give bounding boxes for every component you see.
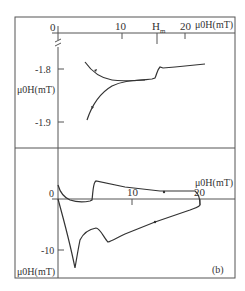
top-y-tick-label-1.8: -1.8 bbox=[35, 64, 51, 75]
top-curve-increasing bbox=[87, 80, 145, 120]
top-x-tick-label-10: 10 bbox=[115, 20, 127, 32]
top-panel: 0 10 H m 20 μ0H(mT) -1.8 -1.9 μ0H(mT) bbox=[17, 19, 235, 148]
bottom-y-tick-label-10: -10 bbox=[41, 245, 54, 256]
top-y-tick-label-1.9: -1.9 bbox=[35, 117, 51, 128]
bottom-x-tick-label-0: 0 bbox=[49, 188, 54, 199]
figure: 0 10 H m 20 μ0H(mT) -1.8 -1.9 μ0H(mT) 0 … bbox=[0, 0, 245, 291]
arrow-icon bbox=[163, 191, 165, 193]
top-curve-decreasing bbox=[85, 62, 205, 81]
top-x-axis-label: μ0H(mT) bbox=[195, 19, 233, 31]
top-x-tick-label-hm-sub: m bbox=[160, 27, 166, 35]
top-x-tick-label-20: 20 bbox=[180, 20, 192, 32]
bottom-y-axis-label: μ0H(mT) bbox=[17, 266, 55, 278]
axis-break-icon bbox=[55, 39, 61, 46]
bottom-panel: 0 10 20 μ0H(mT) -10 μ0H(mT) (b) bbox=[17, 148, 235, 278]
top-x-tick-label-hm: H bbox=[152, 20, 160, 32]
top-y-axis-label: μ0H(mT) bbox=[17, 84, 55, 96]
bottom-x-axis-label: μ0H(mT) bbox=[195, 177, 233, 189]
arrow-icon bbox=[154, 221, 156, 223]
bottom-panel-label: (b) bbox=[212, 264, 224, 276]
top-x-tick-label-0: 0 bbox=[50, 21, 56, 33]
